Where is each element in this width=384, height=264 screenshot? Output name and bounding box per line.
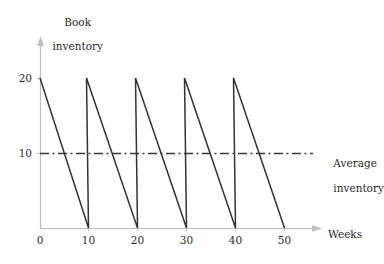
y-axis-title: Book inventory <box>36 4 106 64</box>
xtick-label-20: 20 <box>126 234 150 246</box>
xtick-label-50: 50 <box>273 234 297 246</box>
x-axis-arrowhead <box>312 225 322 232</box>
average-inventory-label: Average inventory <box>320 144 384 207</box>
ytick-label-20: 20 <box>8 72 32 84</box>
xtick-label-10: 10 <box>77 234 101 246</box>
y-axis-title-line1: Book <box>64 16 91 28</box>
ytick-label-10: 10 <box>8 147 32 159</box>
xtick-label-30: 30 <box>175 234 199 246</box>
average-inventory-label-line2: inventory <box>333 182 384 194</box>
xtick-label-40: 40 <box>224 234 248 246</box>
xtick-label-0: 0 <box>28 234 52 246</box>
average-inventory-label-line1: Average <box>333 157 377 169</box>
x-axis-title: Weeks <box>328 228 362 240</box>
y-axis-title-line2: inventory <box>52 40 103 52</box>
